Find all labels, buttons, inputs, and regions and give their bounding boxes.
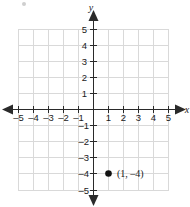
y-tick-label--3: –3 — [78, 152, 89, 163]
scan-artifact-speck — [22, 2, 26, 6]
coordinate-plane-svg: –5 –4 –3 –2 –1 1 2 3 4 5 5 4 3 2 1 –1 –2… — [0, 0, 190, 207]
x-tick-label--2: –2 — [58, 112, 69, 123]
y-tick-label--2: –2 — [78, 136, 89, 147]
x-tick-label-5: 5 — [166, 112, 171, 123]
x-tick-label--3: –3 — [43, 112, 54, 123]
y-tick-label-2: 2 — [82, 72, 87, 83]
x-tick-label-1: 1 — [106, 112, 111, 123]
y-tick-label-5: 5 — [82, 24, 87, 35]
data-point-label: (1, –4) — [117, 168, 144, 180]
y-axis-label: y — [88, 2, 94, 13]
y-tick-label-1: 1 — [82, 88, 87, 99]
x-tick-label--4: –4 — [28, 112, 39, 123]
x-tick-label-3: 3 — [136, 112, 141, 123]
x-tick-label-2: 2 — [121, 112, 126, 123]
data-point-1-neg4 — [105, 170, 112, 177]
coordinate-plane-figure: –5 –4 –3 –2 –1 1 2 3 4 5 5 4 3 2 1 –1 –2… — [0, 0, 190, 207]
y-tick-label-3: 3 — [82, 56, 87, 67]
y-tick-label-4: 4 — [82, 40, 87, 51]
x-axis-label: x — [184, 104, 190, 115]
x-tick-label-4: 4 — [151, 112, 156, 123]
figure-background — [0, 0, 190, 207]
y-tick-label--4: –4 — [78, 168, 89, 179]
x-tick-label--5: –5 — [13, 112, 24, 123]
y-tick-label--5: –5 — [78, 185, 89, 196]
y-tick-label--1: –1 — [78, 120, 89, 131]
